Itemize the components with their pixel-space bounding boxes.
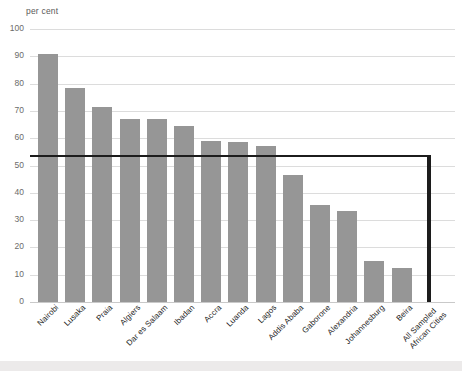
x-axis-label-line: Ibadan [172,303,196,327]
x-axis-category-label: Ibadan [172,303,196,327]
y-axis-tick-label: 30 [0,214,24,224]
x-axis-category-label: Beira [394,303,414,323]
bar [256,146,276,302]
x-axis-label-line: Luanda [225,303,251,329]
x-axis-category-label: Luanda [225,303,251,329]
y-axis-tick-label: 60 [0,132,24,142]
bar [65,88,85,302]
x-axis-category-label: Accra [202,303,224,325]
bar [38,54,58,302]
y-axis-tick-label: 70 [0,105,24,115]
bar [201,141,221,302]
bar-chart: per cent 1009080706050403020100 NairobiL… [0,0,462,371]
y-axis-tick-label: 10 [0,269,24,279]
plot-area: 1009080706050403020100 NairobiLusakaPrai… [0,0,462,371]
bar [92,107,112,302]
x-axis-category-label: Nairobi [36,303,61,328]
x-axis-category-label: Lagos [256,303,278,325]
x-axis-category-label: Praia [95,303,115,323]
y-axis-tick-label: 80 [0,78,24,88]
y-axis-tick-label: 100 [0,23,24,33]
footer-band [0,361,462,371]
x-axis-label-line: Nairobi [36,303,61,328]
y-axis-tick-label: 40 [0,187,24,197]
y-axis-tick-label: 50 [0,160,24,170]
x-axis-label-line: Algiers [118,303,143,328]
bar [283,175,303,302]
y-axis-tick-label: 20 [0,241,24,251]
bar [120,119,140,302]
x-axis-label-line: Beira [394,303,414,323]
x-axis-category-label: Algiers [118,303,143,328]
bar [364,261,384,302]
x-axis-label-line: Accra [202,303,224,325]
bar [310,205,330,302]
x-axis-category-label: Lusaka [63,303,88,328]
bar [228,142,248,302]
x-axis-label-line: Lusaka [63,303,88,328]
x-axis-label-line: Lagos [256,303,278,325]
bar [147,119,167,302]
bar [174,126,194,302]
bar [427,155,431,302]
y-axis-tick-label: 90 [0,50,24,60]
y-axis-tick-label: 0 [0,296,24,306]
bar [337,211,357,302]
reference-line [30,155,431,157]
x-axis-label-line: Praia [95,303,115,323]
bar [392,268,412,302]
